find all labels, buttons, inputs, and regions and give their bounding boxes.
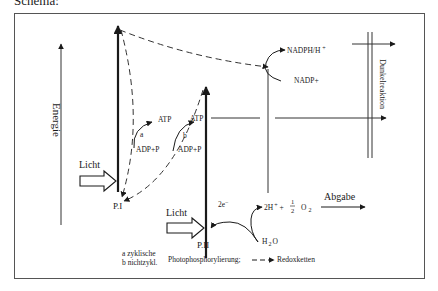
- cycle-a-label: a: [140, 130, 144, 139]
- release-label: Abgabe: [324, 191, 356, 202]
- adp-b-label: ADP+P: [178, 145, 201, 154]
- p1-label: P.I: [113, 201, 122, 211]
- atp-b-label: ATP: [190, 114, 203, 123]
- protons-oxygen-label: 2H++: [264, 202, 284, 212]
- light-arrow-p1: [80, 171, 116, 191]
- light-label-p1: Licht: [79, 159, 100, 170]
- light-arrow-p2: [167, 218, 204, 238]
- atp-a-label: ATP: [158, 115, 171, 124]
- legend: a zyklische b nichtzykl. Photophosphoryl…: [122, 249, 315, 267]
- half-denominator: 2: [291, 207, 294, 214]
- photosynthesis-diagram: Energie ATP a ADP+P ATP b ADP+P NADPH/H+…: [0, 0, 438, 291]
- p2-label: P.II: [197, 240, 209, 250]
- energy-axis-label: Energie: [51, 103, 63, 137]
- nadp-label: NADP+: [294, 76, 319, 85]
- legend-line-b: b nichtzykl.: [122, 258, 158, 267]
- half-numerator: 1: [291, 198, 294, 205]
- electrons-label: 2e−: [218, 199, 229, 209]
- cycle-b-label: b: [183, 131, 187, 140]
- redox-chain-cyclic: [121, 30, 133, 197]
- redox-chain-p1-to-nadp: [120, 30, 268, 67]
- nadph-label: NADPH/H+: [287, 45, 326, 55]
- energy-axis: Energie: [51, 44, 63, 225]
- legend-phospho: Photophosphorylierung;: [168, 255, 241, 264]
- water-to-protons-curve: [251, 207, 262, 242]
- water-label: H2O: [262, 237, 278, 247]
- adp-a-label: ADP+P: [136, 145, 159, 154]
- diagram-frame: [15, 14, 425, 279]
- light-label-p2: Licht: [166, 207, 187, 218]
- legend-redox: Redoxketten: [277, 255, 315, 264]
- oxygen-label: O2: [301, 203, 311, 213]
- dark-reaction-label: Dunkelreaktion: [378, 59, 387, 109]
- legend-line-a: a zyklische: [122, 249, 156, 258]
